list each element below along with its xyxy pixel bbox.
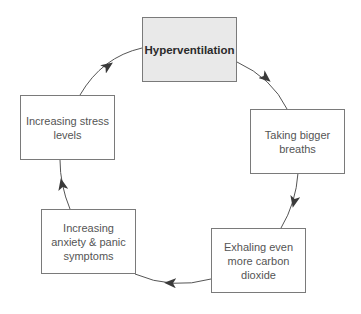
node-label: Taking bigger breaths — [261, 128, 335, 156]
node-label: Increasing stress levels — [25, 114, 110, 142]
node-label: Hyperventilation — [144, 43, 234, 57]
node-bigger-breaths: Taking bigger breaths — [250, 109, 345, 174]
node-label: Increasing anxiety & panic symptoms — [46, 221, 131, 263]
arrow-exhaling-to-anxiety — [135, 274, 211, 283]
arrow-stress-to-hyperventilation — [80, 48, 142, 95]
node-label: Exhaling even more carbon dioxide — [216, 240, 301, 282]
node-stress-levels: Increasing stress levels — [20, 95, 115, 160]
arrow-hyperventilation-to-bigger-breaths — [237, 62, 287, 109]
arrow-bigger-breaths-to-exhaling — [281, 173, 298, 228]
node-exhaling-co2: Exhaling even more carbon dioxide — [211, 228, 306, 293]
node-hyperventilation: Hyperventilation — [142, 17, 237, 82]
node-anxiety-panic: Increasing anxiety & panic symptoms — [41, 209, 136, 274]
arrow-anxiety-to-stress — [60, 160, 70, 209]
